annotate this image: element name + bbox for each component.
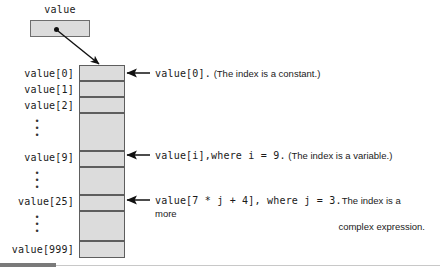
cell-divider xyxy=(80,194,124,196)
cell-divider xyxy=(80,240,124,242)
cell-divider xyxy=(80,80,124,82)
annotation-prose: (The index is a constant.) xyxy=(214,68,321,79)
footer-rule-accent xyxy=(0,263,56,267)
annotation-variable-index: value[i],where i = 9. (The index is a va… xyxy=(155,149,392,162)
index-label-0: value[0] xyxy=(0,68,74,79)
ellipsis-group: • • • xyxy=(0,118,74,139)
annotation-code-tail: . xyxy=(205,68,211,79)
cell-divider xyxy=(80,210,124,212)
annotation-expression-index: value[7 * j + 4], where j = 3.The index … xyxy=(155,194,425,233)
ellipsis-group: • • • xyxy=(0,214,74,235)
cell-divider xyxy=(80,166,124,168)
footer-rule xyxy=(0,265,440,266)
pointer-dot-icon xyxy=(54,27,59,32)
index-label-1: value[1] xyxy=(0,84,74,95)
array-column xyxy=(79,65,125,258)
ellipsis-dot: • xyxy=(0,184,74,191)
index-label-2: value[2] xyxy=(0,100,74,111)
array-indexing-diagram: value value[0] value[1] value[2] value[9… xyxy=(0,0,440,275)
annotation-constant-index: value[0]. (The index is a constant.) xyxy=(155,67,320,80)
annotation-code: value[i],where i = 9 xyxy=(155,150,279,161)
annotation-code-tail: . xyxy=(279,150,285,161)
annotation-code: value[0] xyxy=(155,68,205,79)
annotation-code: value[7 * j + 4], where j = 3 xyxy=(155,195,335,206)
cell-divider xyxy=(80,96,124,98)
ellipsis-group: • • • xyxy=(0,170,74,191)
cell-divider xyxy=(80,150,124,152)
index-label-25: value[25] xyxy=(0,196,74,207)
ellipsis-dot: • xyxy=(0,228,74,235)
index-label-9: value[9] xyxy=(0,152,74,163)
value-pointer-label: value xyxy=(30,4,90,16)
annotation-prose: (The index is a variable.) xyxy=(288,150,392,161)
index-label-999: value[999] xyxy=(0,244,74,255)
annotation-prose-line2: complex expression. xyxy=(155,220,425,233)
value-pointer-box xyxy=(30,20,90,37)
ellipsis-dot: • xyxy=(0,132,74,139)
cell-divider xyxy=(80,112,124,114)
